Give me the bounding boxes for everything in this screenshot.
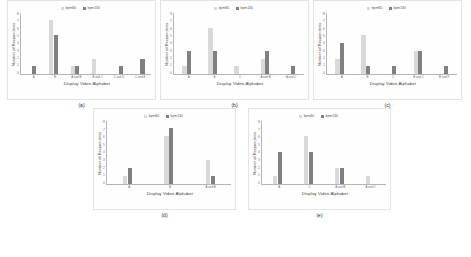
bar-bpm80[interactable]	[261, 59, 265, 75]
plot-wrapper-d: Number of Respondents876543210	[96, 121, 231, 185]
legend-item-bpm80[interactable]: bpm80	[144, 115, 159, 118]
legend-item-bpm80[interactable]: bpm80	[61, 7, 76, 10]
bar-bpm130[interactable]	[169, 128, 173, 184]
legend-label-bpm80: bpm80	[304, 115, 314, 118]
bar-bpm130[interactable]	[291, 66, 295, 74]
bar-bpm80[interactable]	[164, 136, 168, 184]
legend-swatch-icon-bpm130	[166, 115, 169, 118]
y-tick-label: 1	[323, 64, 325, 67]
bar-bpm130[interactable]	[211, 176, 215, 184]
bar-group	[405, 13, 431, 74]
y-tick-label: 1	[258, 174, 260, 177]
chart-frame-e: bpm80bpm130Number of Respondents87654321…	[248, 108, 391, 210]
bar-bpm80[interactable]	[71, 66, 75, 74]
bar-bpm80[interactable]	[335, 59, 339, 75]
chart-frame-c: bpm80bpm130Number of Respondents87654321…	[313, 0, 462, 100]
bar-bpm80[interactable]	[206, 160, 210, 184]
bar-group	[226, 13, 252, 74]
bar-bpm80[interactable]	[273, 176, 277, 184]
bar-group	[355, 121, 386, 184]
chart-legend-b: bpm80bpm130	[163, 4, 304, 13]
x-tick-label: A	[264, 186, 295, 189]
x-tick-label: C and D	[108, 76, 129, 79]
legend-item-bpm130[interactable]: bpm130	[389, 7, 406, 10]
bar-bpm80[interactable]	[92, 59, 96, 75]
legend-label-bpm130: bpm130	[88, 7, 100, 10]
y-tick-label: 4	[103, 151, 105, 154]
bar-bpm130[interactable]	[265, 51, 269, 74]
y-tick-label: 5	[323, 35, 325, 38]
x-axis-ticks-c: ABCB and CB and F	[329, 76, 457, 79]
legend-item-bpm80[interactable]: bpm80	[299, 115, 314, 118]
bar-group	[42, 13, 64, 74]
x-axis-label-b: Display Video Alphabet	[176, 81, 304, 86]
plot-area-d	[106, 121, 231, 185]
bar-bpm130[interactable]	[187, 51, 191, 74]
bar-group	[262, 121, 293, 184]
y-tick-label: 6	[103, 136, 105, 139]
bar-bpm80[interactable]	[182, 66, 186, 74]
figure-bar-chart-grid: bpm80bpm130Number of Respondents87654321…	[0, 0, 471, 257]
y-tick-label: 1	[103, 174, 105, 177]
x-tick-label: A	[109, 186, 150, 189]
chart-legend-d: bpm80bpm130	[96, 112, 231, 121]
bar-group	[324, 121, 355, 184]
bar-bpm80[interactable]	[361, 35, 365, 74]
bar-bpm80[interactable]	[234, 66, 238, 74]
x-tick-label: B and C	[406, 76, 432, 79]
bar-group	[431, 13, 457, 74]
bar-bpm130[interactable]	[340, 168, 344, 184]
x-tick-label: A and B	[253, 76, 279, 79]
bar-bpm80[interactable]	[366, 176, 370, 184]
bar-bpm130[interactable]	[418, 51, 422, 74]
y-tick-label: 8	[103, 121, 105, 124]
plot-wrapper-e: Number of Respondents876543210	[251, 121, 386, 185]
bar-bpm130[interactable]	[213, 51, 217, 74]
legend-item-bpm130[interactable]: bpm130	[166, 115, 183, 118]
bar-bpm80[interactable]	[208, 28, 212, 75]
bar-bpm130[interactable]	[128, 168, 132, 184]
y-tick-label: 2	[170, 57, 172, 60]
bar-bpm130[interactable]	[119, 66, 123, 74]
bar-bpm130[interactable]	[340, 43, 344, 74]
y-tick-label: 5	[103, 144, 105, 147]
plot-area-b	[173, 13, 304, 75]
x-tick-label: A and B	[325, 186, 356, 189]
y-tick-label: 6	[258, 136, 260, 139]
y-tick-label: 6	[170, 28, 172, 31]
bar-group	[174, 13, 200, 74]
y-tick-label: 7	[323, 20, 325, 23]
legend-item-bpm130[interactable]: bpm130	[321, 115, 338, 118]
bar-bpm130[interactable]	[75, 66, 79, 74]
bar-bpm130[interactable]	[32, 66, 36, 74]
bar-bpm80[interactable]	[123, 176, 127, 184]
bar-group	[129, 13, 151, 74]
legend-swatch-icon-bpm130	[236, 7, 239, 10]
legend-item-bpm80[interactable]: bpm80	[367, 7, 382, 10]
bar-bpm130[interactable]	[444, 66, 448, 74]
legend-item-bpm130[interactable]: bpm130	[236, 7, 253, 10]
bar-bpm130[interactable]	[140, 59, 144, 75]
legend-label-bpm80: bpm80	[149, 115, 159, 118]
bar-bpm80[interactable]	[49, 20, 53, 74]
bar-bpm130[interactable]	[366, 66, 370, 74]
bar-group	[64, 13, 86, 74]
bar-bpm80[interactable]	[414, 51, 418, 74]
legend-item-bpm80[interactable]: bpm80	[214, 7, 229, 10]
x-tick-label: A and B	[190, 186, 231, 189]
bar-group	[200, 13, 226, 74]
bar-bpm80[interactable]	[304, 136, 308, 184]
x-tick-label: A and B	[66, 76, 87, 79]
legend-item-bpm130[interactable]: bpm130	[83, 7, 100, 10]
x-tick-label: B	[44, 76, 65, 79]
y-tick-label: 2	[103, 167, 105, 170]
legend-label-bpm130: bpm130	[241, 7, 253, 10]
bar-bpm130[interactable]	[54, 35, 58, 74]
x-tick-label: B	[202, 76, 228, 79]
bar-bpm130[interactable]	[278, 152, 282, 184]
bar-bpm80[interactable]	[335, 168, 339, 184]
x-axis-label-e: Display Video Alphabet	[264, 191, 386, 196]
bar-bpm130[interactable]	[392, 66, 396, 74]
bar-bpm130[interactable]	[309, 152, 313, 184]
y-tick-label: 2	[258, 167, 260, 170]
